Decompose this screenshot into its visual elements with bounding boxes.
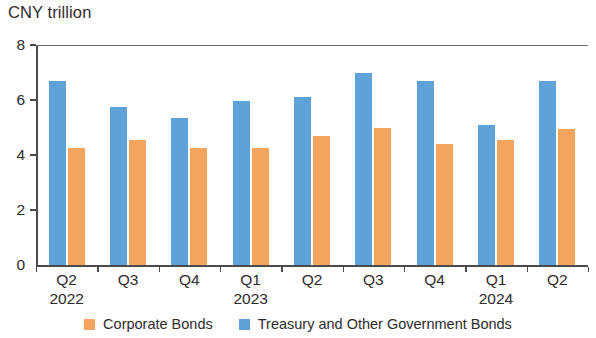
bond-issuance-bar-chart: CNY trillion 02468 Q22022Q3Q4Q12023Q2Q3Q… <box>0 0 596 338</box>
bar-group <box>159 45 220 265</box>
chart-legend: Corporate BondsTreasury and Other Govern… <box>0 316 596 332</box>
y-axis-tick-label: 8 <box>16 35 25 55</box>
bar-group <box>343 45 404 265</box>
bar-group <box>527 45 588 265</box>
x-axis-label: Q3 <box>98 270 158 289</box>
x-axis-label-quarter: Q1 <box>240 271 261 288</box>
x-axis-label-year: 2024 <box>466 289 526 309</box>
bar-treasury <box>539 81 556 265</box>
plot-area: 02468 <box>36 45 588 265</box>
bar-treasury <box>233 101 250 265</box>
bar-treasury <box>110 107 127 265</box>
legend-item-label: Corporate Bonds <box>103 316 213 332</box>
bar-treasury <box>417 81 434 265</box>
x-axis-label-quarter: Q4 <box>424 271 445 288</box>
x-axis-label-quarter: Q4 <box>179 271 200 288</box>
x-axis-label: Q22022 <box>37 270 97 309</box>
bar-treasury <box>49 81 66 265</box>
y-axis-tick-label: 4 <box>16 145 25 165</box>
bar-treasury <box>478 125 495 265</box>
x-axis-label-quarter: Q2 <box>547 271 568 288</box>
x-axis-label: Q4 <box>159 270 219 289</box>
legend-item-corporate[interactable]: Corporate Bonds <box>84 316 213 332</box>
y-axis-tick-label: 0 <box>16 255 25 275</box>
bar-corporate <box>497 140 514 265</box>
x-axis-label-quarter: Q3 <box>363 271 384 288</box>
x-axis-label-quarter: Q2 <box>302 271 323 288</box>
legend-item-treasury[interactable]: Treasury and Other Government Bonds <box>239 316 512 332</box>
bar-corporate <box>129 140 146 265</box>
x-axis-label: Q2 <box>527 270 587 289</box>
bar-group <box>36 45 97 265</box>
x-axis-label: Q3 <box>343 270 403 289</box>
x-axis-label-quarter: Q1 <box>486 271 507 288</box>
x-axis-labels: Q22022Q3Q4Q12023Q2Q3Q4Q12024Q2 <box>36 270 588 320</box>
legend-swatch-icon <box>239 319 250 330</box>
x-axis-label-year: 2022 <box>37 289 97 309</box>
bar-corporate <box>558 129 575 265</box>
x-axis-label-quarter: Q3 <box>118 271 139 288</box>
x-axis-label: Q2 <box>282 270 342 289</box>
bar-corporate <box>313 136 330 265</box>
bar-corporate <box>68 148 85 265</box>
bar-group <box>97 45 158 265</box>
bar-group <box>465 45 526 265</box>
legend-swatch-icon <box>84 319 95 330</box>
bar-corporate <box>374 128 391 266</box>
y-axis-tick-label: 2 <box>16 200 25 220</box>
y-axis-tick-label: 6 <box>16 90 25 110</box>
x-axis-tick-mark <box>588 267 589 272</box>
legend-item-label: Treasury and Other Government Bonds <box>258 316 512 332</box>
y-axis-unit-title: CNY trillion <box>8 3 91 22</box>
x-axis-label-year: 2023 <box>221 289 281 309</box>
bar-group <box>220 45 281 265</box>
bar-group <box>404 45 465 265</box>
x-axis-label: Q4 <box>405 270 465 289</box>
x-axis-label: Q12024 <box>466 270 526 309</box>
bar-corporate <box>252 148 269 265</box>
bar-corporate <box>436 144 453 265</box>
bar-treasury <box>355 73 372 266</box>
bar-group <box>281 45 342 265</box>
bar-treasury <box>294 97 311 265</box>
bar-groups <box>36 45 588 265</box>
bar-treasury <box>171 118 188 265</box>
bar-corporate <box>190 148 207 265</box>
x-axis-label: Q12023 <box>221 270 281 309</box>
x-axis-label-quarter: Q2 <box>56 271 77 288</box>
